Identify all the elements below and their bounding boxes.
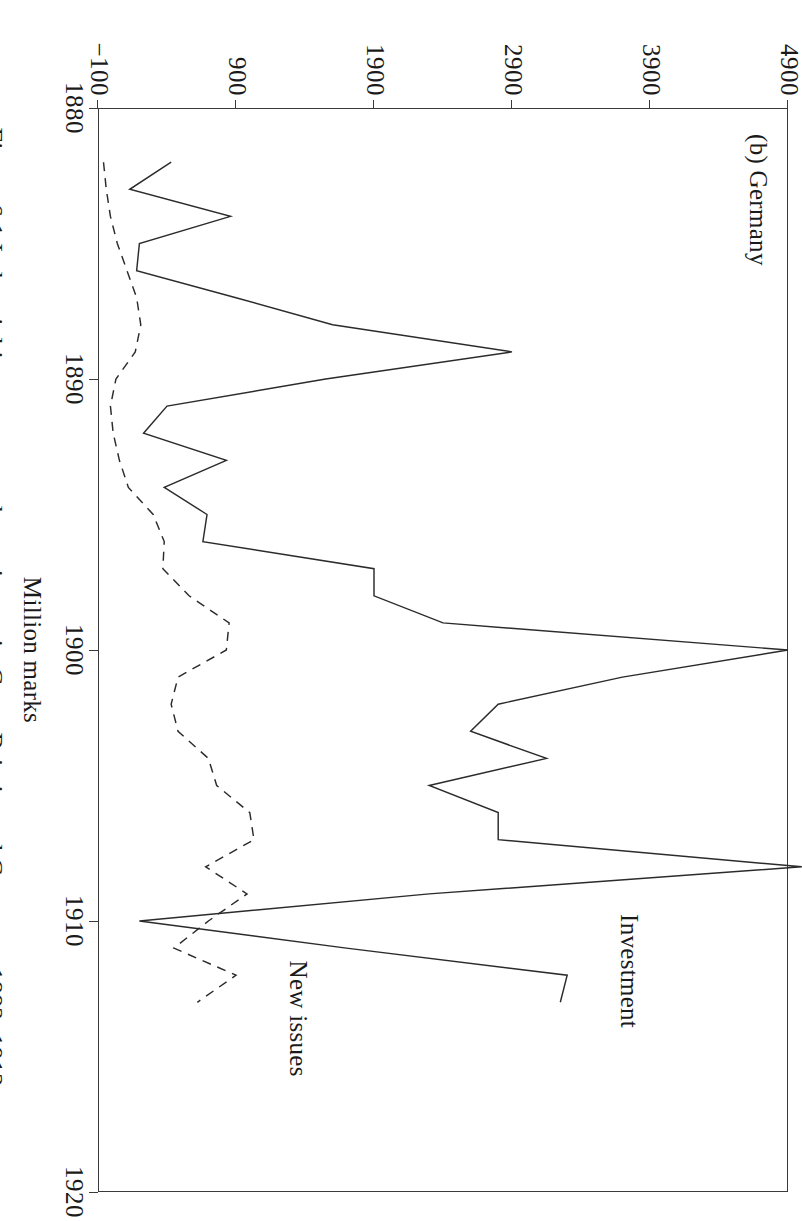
y-axis-tick [649, 100, 650, 108]
x-axis-tick-label: 1900 [60, 595, 88, 705]
y-axis-tick [97, 100, 98, 108]
x-axis-tick [89, 379, 98, 380]
figure-caption: Figure 6.1 Industrial investment and new… [0, 128, 8, 1087]
y-axis-tick-label: 900 [225, 0, 250, 96]
x-axis-tick [89, 1192, 98, 1193]
y-axis-title: Million marks [18, 577, 46, 723]
x-axis-tick-label: 1890 [60, 324, 88, 434]
y-axis-tick [511, 100, 512, 108]
y-axis-tick [787, 100, 788, 108]
series-label-investment: Investment [615, 914, 643, 1028]
series-line-new-issues [104, 162, 254, 1002]
x-axis-tick-label: 1920 [60, 1137, 88, 1221]
x-axis-tick-label: 1880 [60, 53, 88, 163]
y-axis-tick-label: −100 [87, 0, 112, 96]
x-axis-tick-label: 1910 [60, 866, 88, 976]
series-plot-area [98, 108, 788, 1192]
y-axis-tick-label: 3900 [639, 0, 664, 96]
y-axis-tick-label: 1900 [363, 0, 388, 96]
series-label-new-issues: New issues [285, 961, 313, 1077]
x-axis-tick [89, 108, 98, 109]
x-axis-tick [89, 921, 98, 922]
y-axis-tick [235, 100, 236, 108]
series-line-investment [130, 162, 802, 1002]
y-axis-tick-label: 4900 [777, 0, 802, 96]
y-axis-tick [373, 100, 374, 108]
x-axis-tick [89, 650, 98, 651]
y-axis-tick-label: 2900 [501, 0, 526, 96]
